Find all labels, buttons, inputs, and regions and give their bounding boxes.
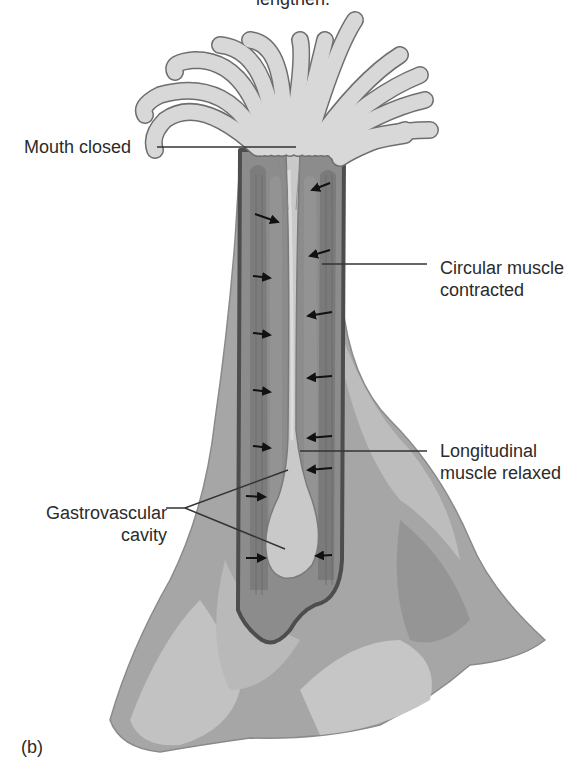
label-circular-line2: contracted bbox=[440, 279, 564, 301]
label-circular-muscle: Circular muscle contracted bbox=[440, 257, 564, 301]
label-circular-line1: Circular muscle bbox=[440, 257, 564, 279]
label-longitudinal-muscle: Longitudinal muscle relaxed bbox=[440, 440, 561, 484]
panel-label: (b) bbox=[21, 736, 43, 758]
label-longitudinal-line2: muscle relaxed bbox=[440, 462, 561, 484]
body-column bbox=[238, 150, 344, 642]
label-longitudinal-line1: Longitudinal bbox=[440, 440, 561, 462]
label-gastrovascular-cavity: Gastrovascular cavity bbox=[46, 502, 167, 546]
caption-fragment: lengthen. bbox=[256, 0, 330, 10]
tentacle-crown bbox=[144, 20, 430, 158]
label-gastro-line2: cavity bbox=[46, 524, 167, 546]
label-gastro-line1: Gastrovascular bbox=[46, 502, 167, 524]
label-mouth-closed: Mouth closed bbox=[24, 136, 131, 158]
hydra-diagram bbox=[0, 0, 587, 761]
